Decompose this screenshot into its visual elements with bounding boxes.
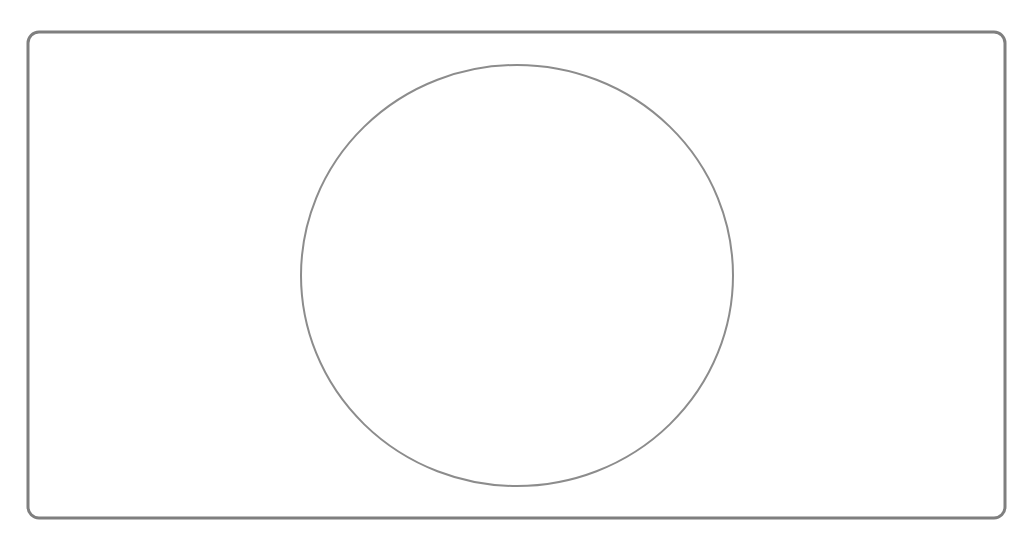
diagram-canvas	[0, 0, 1026, 537]
circle-shape	[301, 65, 733, 486]
diagram-svg	[0, 0, 1026, 537]
rounded-rectangle-frame	[28, 32, 1005, 518]
